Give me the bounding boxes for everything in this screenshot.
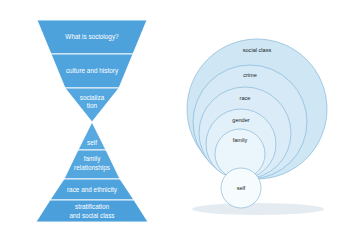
- nested-circles-group: social class crime race gender family se…: [187, 39, 327, 215]
- hourglass-band-race-and-ethnicity[interactable]: [50, 179, 134, 200]
- diagram-canvas: What is sociology? culture and history s…: [0, 0, 338, 245]
- bottom-upright-triangle: self family relationships race and ethni…: [36, 122, 148, 222]
- circle-ring-self[interactable]: [221, 168, 261, 208]
- top-inverted-triangle: What is sociology? culture and history s…: [37, 20, 147, 122]
- hourglass-band-socialization[interactable]: [65, 88, 119, 122]
- diagram-root: What is sociology? culture and history s…: [0, 0, 338, 245]
- hourglass-band-culture-and-history[interactable]: [51, 54, 133, 88]
- hourglass-band-family-relationships[interactable]: [64, 150, 120, 179]
- hourglass-band-stratification-and-social-class[interactable]: [36, 200, 148, 222]
- hourglass-band-what-is-sociology[interactable]: [37, 20, 147, 54]
- circle-stack-shadow: [192, 203, 324, 215]
- hourglass-band-self[interactable]: [78, 122, 106, 150]
